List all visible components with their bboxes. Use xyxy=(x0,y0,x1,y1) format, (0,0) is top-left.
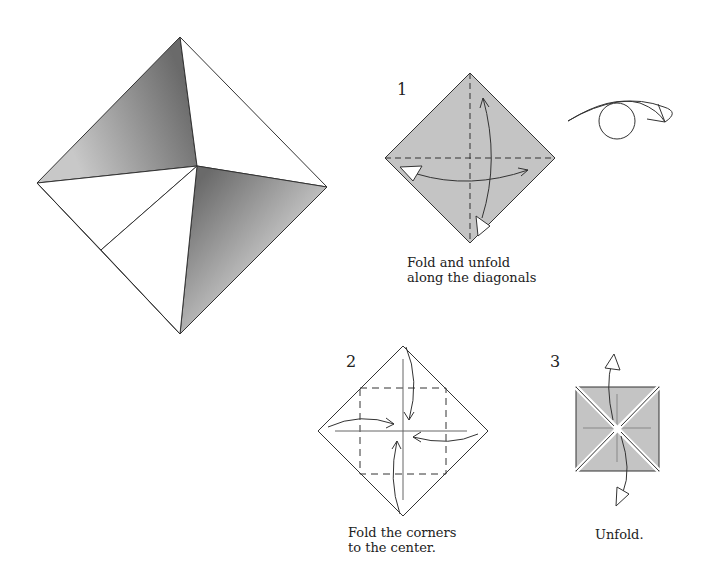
step-1-caption-line1: Fold and unfold xyxy=(407,255,510,271)
finished-model xyxy=(37,37,327,334)
step1-diagram xyxy=(385,73,555,243)
step3-diagram xyxy=(576,354,659,506)
step-1-caption-line2: along the diagonals xyxy=(407,270,536,286)
step-2-caption-line2: to the center. xyxy=(348,540,436,556)
step2-diagram xyxy=(318,346,488,516)
turn-over-icon xyxy=(568,101,672,139)
step-1-number: 1 xyxy=(397,80,407,99)
origami-diagram xyxy=(0,0,703,575)
step-3-number: 3 xyxy=(550,352,560,371)
step-2-caption-line1: Fold the corners xyxy=(348,525,456,541)
step-2-number: 2 xyxy=(346,352,356,371)
step-3-caption: Unfold. xyxy=(595,527,644,543)
